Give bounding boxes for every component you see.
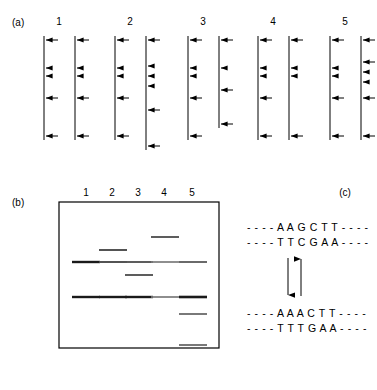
dna-strand-1-left	[44, 36, 58, 140]
panel-a-number-1: 1	[56, 16, 62, 27]
dna-strand-5-left	[330, 36, 344, 140]
gel-lane-5	[179, 262, 207, 345]
dna-strand-3-right	[219, 36, 233, 128]
dna-strand-5-right	[361, 36, 375, 140]
gel-lane-number-1: 1	[83, 187, 89, 198]
dna-strand-2-left	[115, 36, 129, 140]
figure-canvas: (a) 1 2 3 4 5	[0, 0, 377, 390]
panel-a: (a) 1 2 3 4 5	[12, 16, 375, 150]
dna-strand-4-left	[258, 36, 272, 140]
gel-lane-number-2: 2	[109, 187, 115, 198]
wildtype-strand-bottom: - - - - T T C G A A - - - -	[247, 236, 369, 248]
dna-pair-3	[188, 36, 233, 140]
dna-pair-1	[44, 36, 89, 140]
mutant-duplex: - - - - A A A C T T - - - - - - - - T T …	[247, 307, 367, 334]
panel-b-label: (b)	[12, 197, 24, 208]
gel-lane-number-4: 4	[161, 187, 167, 198]
wildtype-strand-top: - - - - A A G C T T - - - -	[247, 221, 369, 233]
gel-lane-number-5: 5	[189, 187, 195, 198]
dna-strand-2-right	[146, 36, 160, 150]
dna-pair-4	[258, 36, 303, 140]
dna-strand-1-right	[75, 36, 89, 140]
panel-b: (b) 1 2 3 4 5	[12, 187, 219, 348]
gel-lane-number-3: 3	[135, 187, 141, 198]
dna-pair-5	[330, 36, 375, 140]
dna-strand-4-right	[289, 36, 303, 140]
panel-a-number-4: 4	[270, 16, 276, 27]
dna-strand-3-left	[188, 36, 202, 140]
panel-c-label: (c)	[339, 187, 351, 198]
panel-a-label: (a)	[12, 17, 24, 28]
gel-lane-4	[151, 237, 179, 297]
panel-a-number-5: 5	[342, 16, 348, 27]
gel-lane-2	[99, 250, 127, 297]
mutant-strand-top: - - - - A A A C T T - - - -	[247, 307, 366, 319]
figure-root: (a) 1 2 3 4 5	[0, 0, 377, 390]
dna-pair-2	[115, 36, 160, 150]
mutation-arrows	[288, 258, 301, 296]
mutant-strand-bottom: - - - - T T T G A A - - - -	[247, 322, 367, 334]
panel-c: (c) - - - - A A G C T T - - - - - - - - …	[247, 187, 369, 334]
panel-a-number-3: 3	[200, 16, 206, 27]
gel-lane-1	[72, 262, 100, 297]
wildtype-duplex: - - - - A A G C T T - - - - - - - - T T …	[247, 221, 369, 248]
gel-lane-3	[125, 262, 153, 297]
panel-a-number-2: 2	[127, 16, 133, 27]
